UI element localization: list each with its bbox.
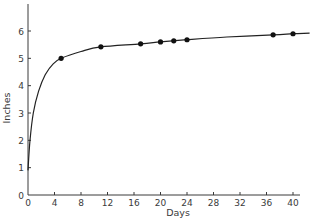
y-tick-label: 4 <box>18 81 24 91</box>
data-point-marker <box>271 32 276 37</box>
x-tick-label: 8 <box>78 198 84 208</box>
x-axis: 0481216202428323640 <box>25 192 300 208</box>
x-tick-label: 12 <box>102 198 113 208</box>
data-point-marker <box>59 56 64 61</box>
data-point-marker <box>184 37 189 42</box>
y-axis-label: Inches <box>1 93 12 124</box>
y-tick-label: 1 <box>18 163 24 173</box>
y-tick-label: 0 <box>18 191 24 201</box>
x-axis-label: Days <box>166 207 190 218</box>
x-tick-label: 4 <box>52 198 58 208</box>
x-tick-label: 28 <box>208 198 220 208</box>
x-tick-label: 36 <box>261 198 273 208</box>
data-point-marker <box>290 31 295 36</box>
x-tick-label: 40 <box>287 198 299 208</box>
data-point-marker <box>98 44 103 49</box>
x-tick-label: 0 <box>25 198 31 208</box>
x-tick-label: 20 <box>155 198 167 208</box>
growth-chart: 0123456 0481216202428323640 Inches Days <box>0 0 313 224</box>
y-tick-label: 5 <box>18 54 24 64</box>
x-tick-label: 16 <box>128 198 140 208</box>
data-point-marker <box>171 38 176 43</box>
y-tick-label: 3 <box>18 109 24 119</box>
fitted-curve-line <box>28 33 310 170</box>
y-tick-label: 2 <box>18 136 24 146</box>
data-point-marker <box>158 39 163 44</box>
y-axis: 0123456 <box>18 4 31 201</box>
x-tick-label: 32 <box>234 198 245 208</box>
data-point-marker <box>138 41 143 46</box>
y-tick-label: 6 <box>18 27 24 37</box>
